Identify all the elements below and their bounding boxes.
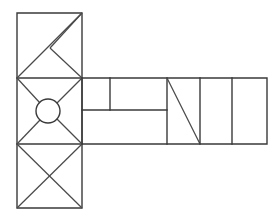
arm-cell-falling-diagonal bbox=[167, 78, 200, 144]
middle-square-diagonal-bl bbox=[17, 120, 40, 144]
right-arm-group bbox=[82, 78, 267, 144]
bottom-square-pattern bbox=[17, 144, 82, 208]
middle-square-diagonal-tl bbox=[17, 78, 40, 103]
middle-square-diagonal-tr bbox=[57, 78, 82, 103]
top-square-k-lower-arm bbox=[50, 48, 82, 78]
top-square-k-upper-arm bbox=[50, 13, 82, 48]
middle-square-pattern bbox=[17, 78, 82, 144]
drawing-canvas: Hammer-shaped geometric line drawing bbox=[0, 0, 280, 223]
middle-square-diagonal-br bbox=[57, 119, 82, 144]
center-circle bbox=[36, 99, 60, 123]
column-outline bbox=[17, 13, 82, 208]
figure-svg: Hammer-shaped geometric line drawing bbox=[0, 0, 280, 223]
left-column-group bbox=[17, 13, 82, 208]
top-square-pattern bbox=[17, 13, 82, 78]
